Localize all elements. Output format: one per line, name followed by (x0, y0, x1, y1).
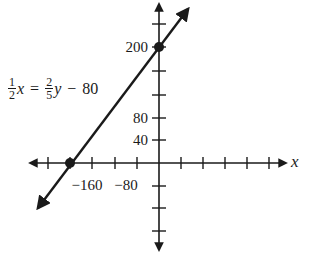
y-tick-label-200: 200 (126, 39, 149, 55)
constant-term: 80 (82, 80, 98, 98)
coordinate-plane: 200 80 40 −160 −80 x (0, 0, 313, 268)
x-intercept-point (65, 158, 75, 168)
line-equation-label: 1 2 x = 2 5 y − 80 (8, 76, 98, 101)
y-tick-label-80: 80 (133, 110, 148, 126)
y-intercept-point (154, 42, 164, 52)
minus-sign: − (67, 80, 76, 98)
lhs-denominator: 2 (9, 89, 15, 101)
x-tick-label-neg160: −160 (72, 177, 103, 193)
x-axis-label: x (290, 152, 299, 171)
lhs-variable: x (17, 80, 24, 98)
rhs-fraction: 2 5 (45, 76, 53, 101)
y-tick-label-40: 40 (133, 132, 148, 148)
lhs-fraction: 1 2 (8, 76, 16, 101)
equation-line (38, 9, 188, 208)
x-tick-label-neg80: −80 (114, 177, 137, 193)
equals-sign: = (30, 80, 39, 98)
rhs-denominator: 5 (46, 89, 52, 101)
rhs-variable: y (54, 80, 61, 98)
